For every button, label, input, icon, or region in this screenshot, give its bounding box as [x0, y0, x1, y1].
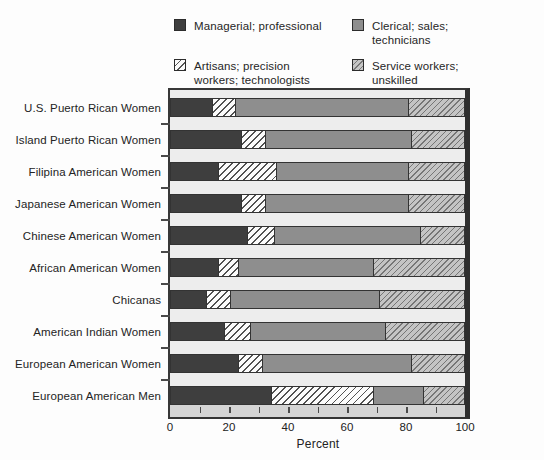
legend-item-managerial: Managerial; professional: [174, 19, 352, 47]
bar-segment-artisans: [238, 355, 261, 372]
bar-segment-managerial: [171, 291, 206, 308]
bar-segment-service: [385, 323, 464, 340]
y-axis-gap-tick: [161, 123, 170, 125]
x-axis-title: Percent: [297, 437, 340, 451]
category-label: Chicanas: [0, 294, 170, 306]
stacked-bar: [170, 226, 465, 245]
bar-row: European American Women: [0, 354, 490, 373]
bar-segment-clerical: [262, 355, 411, 372]
clerical-swatch-icon: [352, 19, 364, 31]
legend-item-artisans: Artisans; precision workers; technologis…: [174, 59, 352, 87]
bar-row: European American Men: [0, 386, 490, 405]
bar-segment-clerical: [250, 323, 385, 340]
x-tick-label: 0: [167, 421, 173, 433]
bar-segment-service: [408, 163, 464, 180]
y-axis-gap-tick: [161, 187, 170, 189]
bar-segment-managerial: [171, 131, 241, 148]
bar-segment-managerial: [171, 227, 247, 244]
y-axis-gap-tick: [161, 379, 170, 381]
bar-segment-managerial: [171, 387, 271, 404]
category-label: European American Women: [0, 358, 170, 370]
bar-row: African American Women: [0, 258, 490, 277]
bar-segment-service: [379, 291, 464, 308]
x-tick-label: 40: [282, 421, 295, 433]
bar-segment-artisans: [271, 387, 374, 404]
bar-row: U.S. Puerto Rican Women: [0, 98, 490, 117]
stacked-bar: [170, 354, 465, 373]
bar-segment-managerial: [171, 163, 218, 180]
y-axis-gap-tick: [161, 251, 170, 253]
stacked-bar: [170, 194, 465, 213]
bar-segment-service: [411, 355, 464, 372]
bar-row: Chinese American Women: [0, 226, 490, 245]
bar-segment-artisans: [247, 227, 273, 244]
category-label: Filipina American Women: [0, 166, 170, 178]
bar-segment-service: [423, 387, 464, 404]
bar-segment-service: [420, 227, 464, 244]
stacked-bar: [170, 258, 465, 277]
bar-row: Chicanas: [0, 290, 490, 309]
bar-segment-artisans: [218, 163, 277, 180]
legend: Managerial; professionalClerical; sales;…: [174, 19, 524, 87]
bar-segment-clerical: [235, 99, 408, 116]
service-swatch-icon: [352, 59, 364, 71]
bar-segment-service: [411, 131, 464, 148]
category-label: Chinese American Women: [0, 230, 170, 242]
bar-segment-managerial: [171, 323, 224, 340]
bar-row: American Indian Women: [0, 322, 490, 341]
x-tick-label: 100: [455, 421, 474, 433]
legend-label: Clerical; sales; technicians: [372, 19, 448, 47]
legend-label: Artisans; precision workers; technologis…: [194, 59, 310, 87]
legend-label: Managerial; professional: [194, 19, 322, 33]
bar-segment-managerial: [171, 195, 241, 212]
bar-row: Japanese American Women: [0, 194, 490, 213]
bar-segment-service: [408, 99, 464, 116]
category-label: African American Women: [0, 262, 170, 274]
artisans-swatch-icon: [174, 59, 186, 71]
y-axis-gap-tick: [161, 219, 170, 221]
managerial-swatch-icon: [174, 19, 186, 31]
category-label: Japanese American Women: [0, 198, 170, 210]
legend-label: Service workers; unskilled: [372, 59, 459, 87]
stacked-bar: [170, 162, 465, 181]
y-axis-gap-tick: [161, 315, 170, 317]
x-tick-label: 60: [341, 421, 354, 433]
stacked-bar: [170, 386, 465, 405]
y-axis-gap-tick: [161, 155, 170, 157]
bar-segment-artisans: [218, 259, 239, 276]
figure-occupational-distribution: Managerial; professionalClerical; sales;…: [0, 0, 544, 460]
stacked-bar: [170, 130, 465, 149]
bar-segment-artisans: [206, 291, 229, 308]
x-tick-label: 20: [223, 421, 236, 433]
bar-segment-artisans: [241, 195, 264, 212]
bar-segment-clerical: [373, 387, 423, 404]
bar-segment-clerical: [265, 195, 409, 212]
legend-item-service: Service workers; unskilled: [352, 59, 524, 87]
stacked-bar: [170, 98, 465, 117]
bar-segment-managerial: [171, 355, 238, 372]
bar-segment-clerical: [265, 131, 412, 148]
category-label: European American Men: [0, 390, 170, 402]
bar-row: Island Puerto Rican Women: [0, 130, 490, 149]
category-label: American Indian Women: [0, 326, 170, 338]
y-axis-gap-tick: [161, 283, 170, 285]
bar-rows: U.S. Puerto Rican WomenIsland Puerto Ric…: [0, 98, 544, 408]
bar-segment-clerical: [276, 163, 408, 180]
bar-segment-artisans: [212, 99, 235, 116]
bar-segment-managerial: [171, 259, 218, 276]
bar-segment-managerial: [171, 99, 212, 116]
bar-segment-service: [373, 259, 464, 276]
stacked-bar: [170, 290, 465, 309]
bar-segment-clerical: [238, 259, 373, 276]
y-axis-gap-tick: [161, 347, 170, 349]
x-tick-label: 80: [400, 421, 413, 433]
bar-segment-artisans: [241, 131, 264, 148]
bar-segment-artisans: [224, 323, 250, 340]
stacked-bar: [170, 322, 465, 341]
category-label: U.S. Puerto Rican Women: [0, 102, 170, 114]
bar-row: Filipina American Women: [0, 162, 490, 181]
bar-segment-clerical: [230, 291, 379, 308]
category-label: Island Puerto Rican Women: [0, 134, 170, 146]
bar-segment-clerical: [274, 227, 421, 244]
legend-item-clerical: Clerical; sales; technicians: [352, 19, 524, 47]
